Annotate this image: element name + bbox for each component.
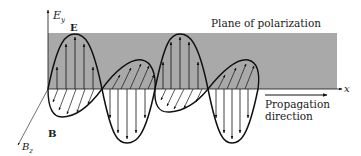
x-axis-label: x [344,83,350,94]
propagation-label-line2: direction [265,110,313,122]
plane-label: Plane of polarization [211,17,321,29]
em-wave-diagram: Ey E B Bz x Plane of polarization Propag… [0,0,361,156]
bz-axis [18,89,48,145]
e-field-label: E [70,22,78,33]
bz-axis-label: Bz [21,141,33,155]
b-field-label: B [48,128,56,139]
ey-axis-label: Ey [52,9,66,24]
propagation-label-line1: Propagation [265,98,330,110]
